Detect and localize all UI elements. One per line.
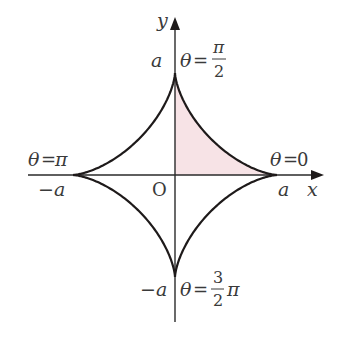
theta-zero-label: θ = 0 — [270, 148, 308, 170]
y-axis-label: y — [156, 9, 168, 31]
theta-pi-label: θ = π — [28, 148, 68, 170]
theta-symbol: θ — [180, 278, 192, 300]
equals-sign: = — [283, 149, 298, 170]
x-axis-label: x — [307, 178, 318, 200]
equals-sign: = — [193, 279, 208, 300]
equals-sign: = — [193, 50, 208, 71]
theta-symbol: θ — [28, 148, 40, 170]
theta-value: π — [54, 148, 68, 170]
theta-three-half-pi-label: θ = 3 2 π — [180, 268, 240, 310]
pos-x-label: a — [278, 178, 289, 200]
theta-symbol: θ — [270, 148, 282, 170]
fraction-denominator: 2 — [213, 291, 223, 310]
neg-x-label: −a — [38, 178, 65, 200]
fraction-numerator: 3 — [213, 268, 223, 287]
astroid-diagram: y x O a −a a −a θ = π 2 θ = π θ = 0 θ = … — [0, 0, 341, 346]
pos-y-label: a — [151, 49, 162, 71]
theta-symbol: θ — [180, 49, 192, 71]
theta-value: 0 — [297, 149, 308, 170]
pi-suffix: π — [226, 278, 240, 300]
y-axis-arrow-icon — [170, 17, 180, 30]
origin-label: O — [152, 179, 167, 200]
theta-half-pi-label: θ = π 2 — [180, 37, 226, 81]
neg-y-label: −a — [140, 278, 167, 300]
equals-sign: = — [41, 149, 56, 170]
shaded-region — [175, 73, 277, 175]
fraction-denominator: 2 — [214, 62, 224, 81]
fraction-numerator: π — [212, 37, 225, 57]
